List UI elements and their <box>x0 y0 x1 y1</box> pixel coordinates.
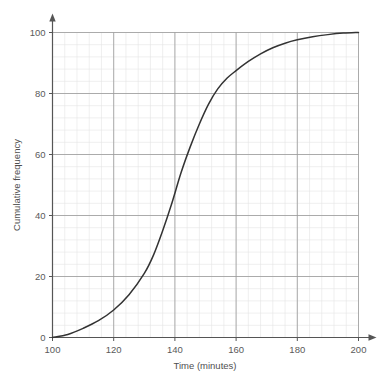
x-tick-label: 100 <box>45 344 61 355</box>
x-axis-title: Time (minutes) <box>174 360 237 371</box>
y-axis-tick-labels: 020406080100 <box>30 27 46 343</box>
y-tick-label: 40 <box>35 210 46 221</box>
x-tick-label: 160 <box>228 344 244 355</box>
y-tick-label: 20 <box>35 271 46 282</box>
y-tick-label: 0 <box>40 332 45 343</box>
y-tick-label: 60 <box>35 149 46 160</box>
minor-gridlines <box>53 33 359 338</box>
y-tick-label: 100 <box>30 27 46 38</box>
data-series-layer <box>53 33 359 338</box>
cumulative-frequency-chart: 100120140160180200 020406080100 Time (mi… <box>0 0 380 385</box>
x-tick-label: 120 <box>106 344 122 355</box>
axis-ticks <box>49 33 359 342</box>
x-tick-label: 140 <box>167 344 183 355</box>
y-tick-label: 80 <box>35 88 46 99</box>
x-tick-label: 180 <box>289 344 305 355</box>
x-tick-label: 200 <box>351 344 367 355</box>
series-line-0 <box>53 33 359 338</box>
major-gridlines <box>53 33 359 338</box>
axis-lines <box>49 14 376 341</box>
x-axis-tick-labels: 100120140160180200 <box>45 344 367 355</box>
chart-canvas: 100120140160180200 020406080100 Time (mi… <box>0 0 380 385</box>
y-axis-title: Cumulative frequency <box>11 139 22 231</box>
